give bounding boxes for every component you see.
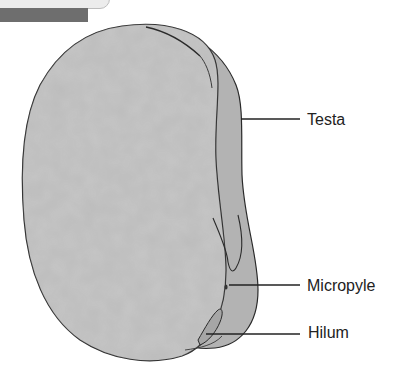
seed-illustration (0, 0, 416, 380)
hilum-label: Hilum (308, 324, 349, 342)
testa-label: Testa (307, 111, 345, 129)
micropyle-mark (224, 285, 227, 290)
micropyle-label: Micropyle (307, 277, 375, 295)
seed-texture (22, 24, 226, 360)
